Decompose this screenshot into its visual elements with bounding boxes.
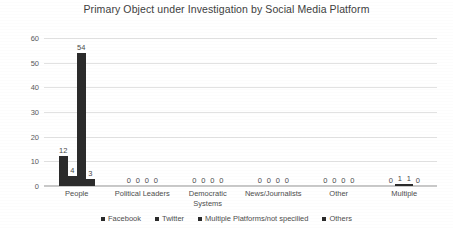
bar-value-label: 0 xyxy=(192,176,196,185)
bar-value-label: 0 xyxy=(350,176,354,185)
category-label: Other xyxy=(306,189,372,199)
legend-swatch-icon xyxy=(198,217,202,221)
legend-item[interactable]: Others xyxy=(322,214,352,223)
y-axis-tick-40: 40 xyxy=(31,83,39,92)
bar-group: 124543 xyxy=(44,38,110,186)
bar xyxy=(68,176,77,186)
y-axis-tick-50: 50 xyxy=(31,58,39,67)
bar-slot: 0 xyxy=(330,38,339,186)
bar-slot: 0 xyxy=(282,38,291,186)
legend-swatch-icon xyxy=(322,217,326,221)
legend-swatch-icon xyxy=(101,217,105,221)
bar-slot: 0 xyxy=(255,38,264,186)
bar-value-label: 0 xyxy=(276,176,280,185)
legend-swatch-icon xyxy=(155,217,159,221)
bar-group: 0000 xyxy=(110,38,176,186)
legend-label: Facebook xyxy=(108,214,141,223)
bar-value-label: 0 xyxy=(389,176,393,185)
bar xyxy=(59,156,68,186)
category-label: Democratic Systems xyxy=(175,189,241,208)
bar-value-label: 12 xyxy=(59,146,67,155)
bar-slot: 0 xyxy=(142,38,151,186)
bar-value-label: 0 xyxy=(201,176,205,185)
y-axis-tick-60: 60 xyxy=(31,34,39,43)
bar-slot: 0 xyxy=(339,38,348,186)
bar-slot: 0 xyxy=(208,38,217,186)
legend-item[interactable]: Twitter xyxy=(155,214,184,223)
bar xyxy=(86,179,95,186)
bar-slot: 0 xyxy=(386,38,395,186)
bar-value-label: 0 xyxy=(341,176,345,185)
bar-group: 0000 xyxy=(175,38,241,186)
bar-value-label: 54 xyxy=(77,43,85,52)
legend-label: Others xyxy=(329,214,352,223)
bar-value-label: 0 xyxy=(136,176,140,185)
bar-chart: Primary Object under Investigation by So… xyxy=(0,0,453,228)
bar-slot: 0 xyxy=(273,38,282,186)
bar-value-label: 0 xyxy=(332,176,336,185)
bar-group: 0110 xyxy=(372,38,438,186)
bar-value-label: 0 xyxy=(258,176,262,185)
bar-slot: 0 xyxy=(124,38,133,186)
bar-value-label: 0 xyxy=(285,176,289,185)
bar-slot: 0 xyxy=(190,38,199,186)
bar-value-label: 4 xyxy=(70,166,74,175)
category-label: Multiple xyxy=(372,189,438,199)
bar-value-label: 0 xyxy=(219,176,223,185)
category-label: News/Journalists xyxy=(241,189,307,199)
bar-slot: 12 xyxy=(59,38,68,186)
bar-value-label: 0 xyxy=(210,176,214,185)
chart-title: Primary Object under Investigation by So… xyxy=(0,3,453,16)
bar-slot: 0 xyxy=(151,38,160,186)
bar-value-label: 0 xyxy=(416,176,420,185)
bar-value-label: 0 xyxy=(267,176,271,185)
bar-group: 0000 xyxy=(306,38,372,186)
bar-value-label: 1 xyxy=(407,174,411,183)
legend-label: Twitter xyxy=(162,214,184,223)
bar-slot: 4 xyxy=(68,38,77,186)
y-axis-tick-20: 20 xyxy=(31,132,39,141)
bar-slot: 54 xyxy=(77,38,86,186)
bar-slot: 0 xyxy=(199,38,208,186)
bar-value-label: 0 xyxy=(127,176,131,185)
bar-slot: 0 xyxy=(348,38,357,186)
bar-slot: 0 xyxy=(133,38,142,186)
y-axis-tick-0: 0 xyxy=(35,182,39,191)
legend-item[interactable]: Multiple Platforms/not specilied xyxy=(198,214,308,223)
bar-slot: 3 xyxy=(86,38,95,186)
bar-slot: 0 xyxy=(264,38,273,186)
bar-slot: 0 xyxy=(217,38,226,186)
bar-slot: 1 xyxy=(395,38,404,186)
bar-slot: 0 xyxy=(321,38,330,186)
bar-group: 0000 xyxy=(241,38,307,186)
legend-item[interactable]: Facebook xyxy=(101,214,141,223)
bar xyxy=(404,184,413,186)
plot-area: 0102030405060 12454300000000000000000110 xyxy=(44,38,437,186)
bar-value-label: 0 xyxy=(323,176,327,185)
legend-label: Multiple Platforms/not specilied xyxy=(205,214,308,223)
category-label: People xyxy=(44,189,110,199)
bar xyxy=(395,184,404,186)
bar-value-label: 1 xyxy=(398,174,402,183)
category-label: Political Leaders xyxy=(110,189,176,199)
y-axis-tick-10: 10 xyxy=(31,157,39,166)
bar-slot: 1 xyxy=(404,38,413,186)
chart-legend: FacebookTwitterMultiple Platforms/not sp… xyxy=(0,214,453,223)
bar-value-label: 0 xyxy=(145,176,149,185)
bar-value-label: 3 xyxy=(88,169,92,178)
y-axis-tick-30: 30 xyxy=(31,108,39,117)
bar-value-label: 0 xyxy=(154,176,158,185)
bar xyxy=(77,53,86,186)
gridline-0 xyxy=(44,186,437,187)
bar-slot: 0 xyxy=(413,38,422,186)
